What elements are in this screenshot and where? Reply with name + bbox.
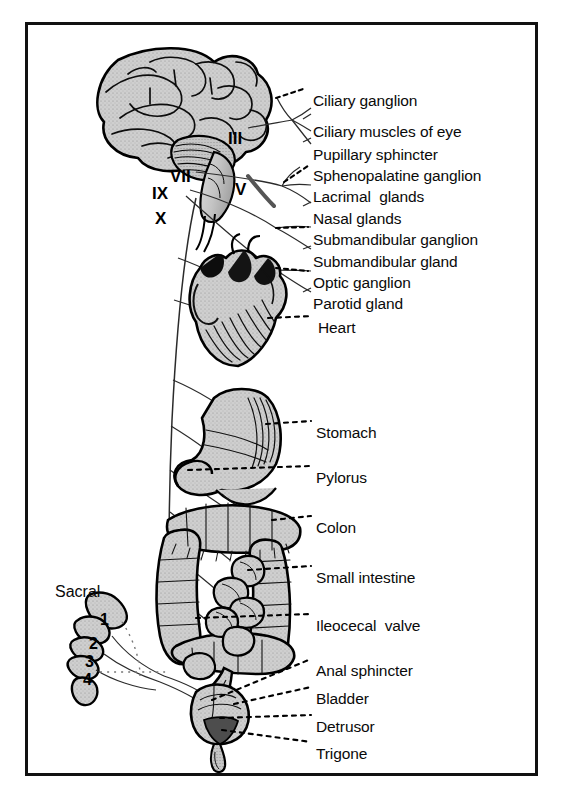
stomach-illustration	[174, 389, 280, 510]
label-small-intestine: Small intestine	[316, 570, 415, 586]
label-pylorus: Pylorus	[316, 470, 367, 486]
label-detrusor: Detrusor	[316, 719, 375, 735]
label-connectors	[303, 114, 311, 292]
cranial-nerve-v-numeral: V	[235, 181, 246, 198]
cranial-nerve-x-numeral: X	[155, 210, 166, 227]
label-trigone: Trigone	[316, 746, 367, 762]
sacral-title: Sacral	[55, 584, 100, 600]
sacral-vertebra-4-number: 4	[83, 672, 92, 688]
sacral-vertebra-3-number: 3	[85, 654, 94, 670]
label-bladder: Bladder	[316, 691, 369, 707]
label-ileocecal-valve: Ileocecal valve	[316, 618, 420, 634]
label-parotid-gland: Parotid gland	[313, 296, 403, 312]
label-submandibular-ganglion: Submandibular ganglion	[313, 232, 478, 248]
label-colon: Colon	[316, 520, 356, 536]
label-ciliary-ganglion: Ciliary ganglion	[313, 93, 417, 109]
cranial-nerve-ix-numeral: IX	[152, 185, 168, 202]
label-anal-sphincter: Anal sphincter	[316, 663, 413, 679]
label-pupillary-sphincter: Pupillary sphincter	[313, 147, 438, 163]
label-stomach: Stomach	[316, 425, 376, 441]
cranial-nerve-iii-numeral: III	[228, 130, 242, 147]
label-lacrimal-glands: Lacrimal glands	[313, 189, 424, 205]
label-ciliary-muscles-of-eye: Ciliary muscles of eye	[313, 124, 462, 140]
sacral-vertebra-1-number: 1	[100, 612, 109, 628]
parasympathetic-diagram: III VII IX X V Sacral 1 2 3 4 Ciliary ga…	[0, 0, 568, 798]
label-nasal-glands: Nasal glands	[313, 211, 401, 227]
label-sphenopalatine-ganglion: Sphenopalatine ganglion	[313, 168, 481, 184]
cranial-nerve-vii-numeral: VII	[170, 168, 191, 185]
label-submandibular-gland: Submandibular gland	[313, 254, 458, 270]
heart-illustration	[190, 234, 287, 366]
sacral-vertebra-2-number: 2	[89, 636, 98, 652]
label-heart: Heart	[318, 320, 355, 336]
label-optic-ganglion: Optic ganglion	[313, 275, 411, 291]
ileocecal-valve-illustration	[184, 653, 215, 679]
brain-illustration	[97, 48, 271, 252]
